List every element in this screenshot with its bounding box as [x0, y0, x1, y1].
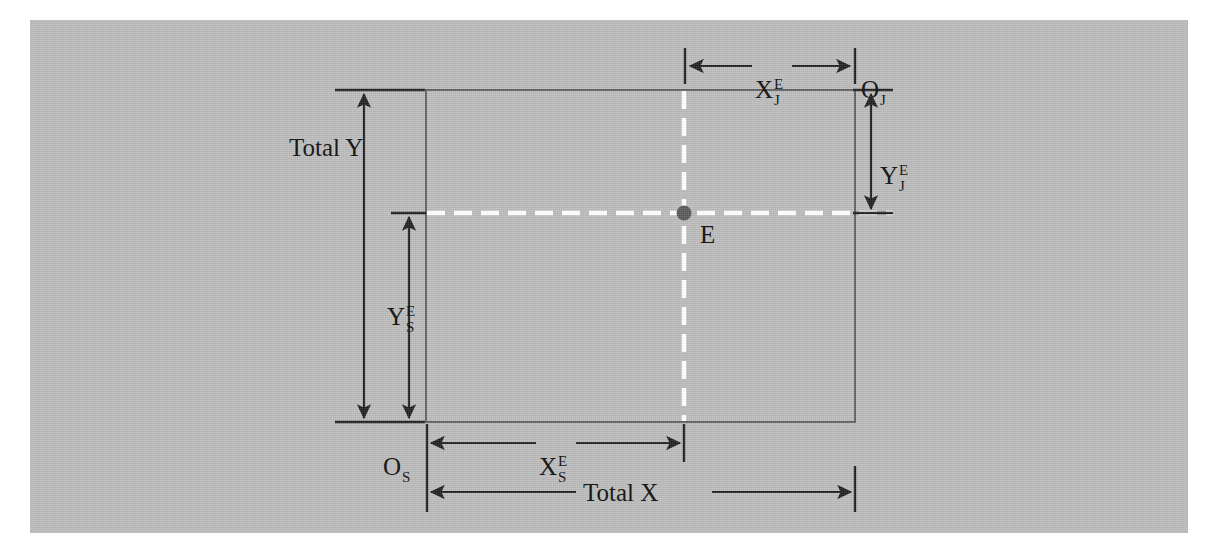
label-origin-s: OS — [383, 453, 401, 481]
label-x-e-j-sub: J — [774, 92, 780, 109]
label-y-e-s-sup: E — [406, 303, 415, 320]
label-mask-x-e-s — [536, 431, 576, 455]
label-origin-j: OJ — [861, 76, 879, 104]
label-y-e-j: YEJ — [880, 162, 898, 190]
label-x-e-s-base: X — [539, 453, 557, 480]
gray-panel — [30, 20, 1188, 533]
label-y-e-s-base: Y — [387, 303, 405, 330]
diagram-canvas — [0, 0, 1216, 556]
point-e-marker — [677, 206, 692, 221]
label-x-e-s-sup: E — [558, 453, 567, 470]
label-x-e-s-sub: S — [558, 469, 566, 486]
label-origin-s-sub: S — [402, 469, 410, 486]
figure-root: Total Y YES YEJ XEJ XES OJ OS Total X E — [0, 0, 1216, 556]
label-x-e-s: XES — [539, 453, 557, 481]
label-total-y: Total Y — [289, 135, 363, 160]
label-y-e-s-sub: S — [406, 319, 414, 336]
label-y-e-j-sup: E — [899, 162, 908, 179]
label-point-e: E — [700, 222, 715, 247]
label-y-e-j-sub: J — [899, 178, 905, 195]
label-origin-j-sub: J — [880, 92, 886, 109]
label-x-e-j-base: X — [755, 76, 773, 103]
label-total-x: Total X — [583, 480, 658, 505]
label-x-e-j: XEJ — [755, 76, 773, 104]
label-origin-j-base: O — [861, 76, 879, 103]
label-y-e-j-base: Y — [880, 162, 898, 189]
label-y-e-s: YES — [387, 303, 405, 331]
label-mask-x-e-j — [752, 54, 792, 78]
label-origin-s-base: O — [383, 453, 401, 480]
label-x-e-j-sup: E — [774, 76, 783, 93]
